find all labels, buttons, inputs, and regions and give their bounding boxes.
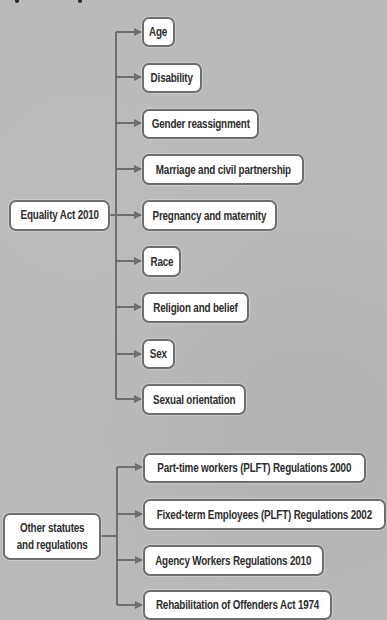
node-label: Sex: [150, 347, 167, 361]
node-label: Age: [149, 25, 167, 39]
root-node-other-statutes: Other statutes and regulations: [3, 513, 101, 560]
node-label: Agency Workers Regulations 2010: [155, 554, 311, 568]
node-disability: Disability: [142, 63, 202, 93]
node-race: Race: [142, 246, 181, 277]
node-sex: Sex: [142, 339, 175, 369]
node-age: Age: [142, 17, 175, 47]
node-pregnancy-maternity: Pregnancy and maternity: [142, 200, 277, 231]
node-fixed-term-employees: Fixed-term Employees (PLFT) Regulations …: [143, 499, 386, 530]
node-label: Race: [150, 255, 173, 269]
node-rehabilitation-offenders: Rehabilitation of Offenders Act 1974: [143, 590, 332, 620]
node-label: Part-time workers (PLFT) Regulations 200…: [158, 461, 352, 475]
node-label: Disability: [151, 71, 193, 85]
node-label: Equality Act 2010: [20, 207, 98, 224]
node-part-time-workers: Part-time workers (PLFT) Regulations 200…: [143, 453, 366, 483]
node-label: Other statutes and regulations: [17, 520, 88, 554]
node-marriage-civil-partnership: Marriage and civil partnership: [142, 154, 304, 185]
node-religion-belief: Religion and belief: [142, 292, 249, 323]
node-label: Pregnancy and maternity: [153, 209, 267, 223]
node-label: Marriage and civil partnership: [155, 163, 290, 177]
node-label: Gender reassignment: [151, 117, 249, 131]
node-gender-reassignment: Gender reassignment: [142, 109, 259, 139]
root-node-equality-act: Equality Act 2010: [9, 200, 110, 231]
node-label: Religion and belief: [153, 301, 237, 315]
node-label: Fixed-term Employees (PLFT) Regulations …: [157, 508, 372, 522]
node-label: Sexual orientation: [153, 393, 235, 407]
node-sexual-orientation: Sexual orientation: [142, 384, 246, 415]
node-label: Rehabilitation of Offenders Act 1974: [156, 598, 319, 612]
node-agency-workers: Agency Workers Regulations 2010: [143, 545, 324, 576]
